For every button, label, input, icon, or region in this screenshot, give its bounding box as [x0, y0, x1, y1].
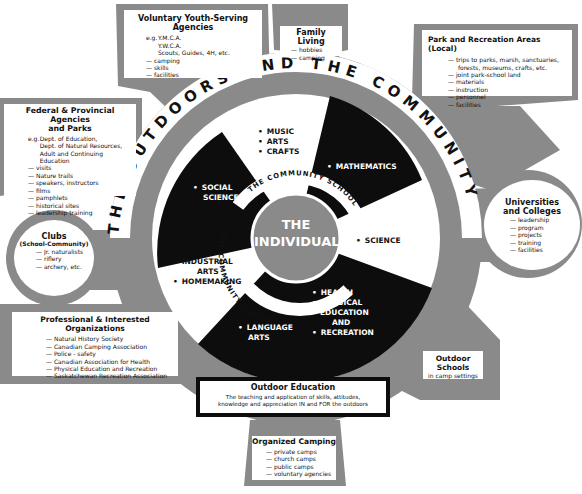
- subject-science: SCIENCE: [356, 236, 401, 246]
- box-federal-provincial: Federal & Provincial Agencies and Parks …: [4, 104, 136, 196]
- universities-item: training: [510, 239, 580, 246]
- federal-example: Dept. of Education,: [40, 135, 132, 142]
- subject-social-science: SOCIAL SCIENCE: [193, 183, 239, 203]
- subject-language-arts: LANGUAGE ARTS: [238, 323, 293, 343]
- federal-item: speakers, instructors: [28, 179, 132, 186]
- box-park-recreation: Park and Recreation Areas (Local) trips …: [422, 30, 572, 96]
- federal-item: historical sites: [28, 202, 132, 209]
- professional-title: Professional & Interested Organizations: [16, 316, 174, 333]
- clubs-subtitle: (School-Community): [14, 241, 94, 248]
- park-item: instruction: [448, 86, 568, 93]
- universities-item: program: [510, 224, 580, 231]
- outdoor-schools-subtitle: in camp settings: [423, 372, 483, 379]
- outdoor-education-title: Outdoor Education: [200, 383, 386, 392]
- family-item: hobbies: [291, 46, 339, 53]
- subject-arts-label: ARTS: [258, 137, 300, 147]
- professional-item: Saskatchewan Recreation Association: [46, 372, 174, 379]
- box-organized-camping: Organized Camping private camps church c…: [252, 436, 336, 480]
- park-title: Park and Recreation Areas (Local): [426, 36, 568, 53]
- professional-item: Physical Education and Recreation: [46, 365, 174, 372]
- park-item: joint park-school land: [448, 71, 568, 78]
- subject-crafts-label: CRAFTS: [258, 147, 300, 157]
- park-item: materials: [448, 78, 568, 85]
- subject-recreation-label: RECREATION: [312, 328, 374, 338]
- clubs-item: Jr. naturalists: [36, 248, 94, 255]
- clubs-item: riflery: [36, 255, 94, 262]
- voluntary-item: skills: [146, 64, 256, 71]
- federal-title-2: and Parks: [8, 125, 132, 134]
- voluntary-item: camping: [146, 57, 256, 64]
- universities-item: facilities: [510, 246, 580, 253]
- park-item-continuation: forests, museums, crafts, etc.: [448, 64, 568, 71]
- box-outdoor-schools: Outdoor Schools in camp settings: [423, 351, 483, 379]
- professional-item: Police - safety: [46, 350, 174, 357]
- subject-physical-label: PHYSICAL: [312, 298, 374, 308]
- subject-mathematics: MATHEMATICS: [327, 162, 397, 172]
- family-title: Family Living: [283, 28, 339, 46]
- universities-item: projects: [510, 231, 580, 238]
- community-school-upper: THE COMMUNITY SCHOOL: [247, 169, 360, 208]
- organized-camping-item: voluntary agencies: [266, 470, 336, 477]
- subject-homemaking-label: HOMEMAKING: [173, 277, 241, 287]
- subject-industrial-line2: ARTS: [173, 267, 241, 277]
- subject-music-label: MUSIC: [258, 127, 300, 137]
- federal-eg: e.g.: [28, 135, 40, 165]
- universities-title-2: and Colleges: [484, 207, 580, 216]
- voluntary-eg: e.g.: [146, 34, 158, 56]
- professional-item: Canadian Association for Health: [46, 358, 174, 365]
- box-clubs: Clubs (School-Community) Jr. naturalists…: [14, 220, 94, 296]
- park-item: personnel: [448, 93, 568, 100]
- voluntary-title-2: Agencies: [130, 23, 256, 32]
- subject-music: MUSIC ARTS CRAFTS: [258, 127, 300, 157]
- center-title-line1: THE: [254, 216, 338, 233]
- box-outdoor-education: Outdoor Education The teaching and appli…: [196, 377, 390, 417]
- professional-item: Natural History Society: [46, 335, 174, 342]
- federal-item: leadership training: [28, 209, 132, 216]
- subject-physical-line2: EDUCATION: [312, 308, 374, 318]
- box-professional-organizations: Professional & Interested Organizations …: [12, 312, 178, 376]
- organized-camping-item: private camps: [266, 448, 336, 455]
- center-title-line2: INDIVIDUAL: [254, 233, 338, 250]
- federal-example: Adult and Continuing Education: [40, 150, 132, 165]
- park-item: trips to parks, marsh, sanctuaries,: [448, 56, 568, 63]
- organized-camping-item: public camps: [266, 463, 336, 470]
- federal-title-1: Federal & Provincial Agencies: [8, 107, 132, 125]
- subject-physical-line3: AND: [312, 318, 374, 328]
- federal-item: pamphlets: [28, 194, 132, 201]
- clubs-item: archery, etc.: [36, 263, 94, 270]
- box-family-living: Family Living hobbies camping: [280, 26, 342, 56]
- federal-item: Nature trails: [28, 172, 132, 179]
- outdoor-schools-title: Outdoor Schools: [423, 355, 483, 372]
- subject-social-line1: SOCIAL: [193, 183, 239, 193]
- family-item: camping: [291, 54, 339, 61]
- box-universities: Universities and Colleges leadership pro…: [484, 180, 580, 270]
- subject-language-line2: ARTS: [238, 333, 293, 343]
- universities-item: leadership: [510, 216, 580, 223]
- outdoor-education-line1: The teaching and application of skills, …: [200, 394, 386, 401]
- diagram-stage: THE OUTDOORS AND THE COMMUNITY THE COMMU…: [0, 0, 582, 494]
- voluntary-item: facilities: [146, 71, 256, 78]
- universities-title-1: Universities: [484, 198, 580, 207]
- federal-example: Dept. of Natural Resources,: [40, 142, 132, 149]
- federal-item: visits: [28, 164, 132, 171]
- park-item: facilities: [448, 101, 568, 108]
- subject-health-label: HEALTH: [312, 288, 374, 298]
- center-title: THE INDIVIDUAL: [254, 216, 338, 250]
- voluntary-example: Y.W.C.A.: [158, 42, 230, 49]
- voluntary-example: Y.M.C.A.: [158, 34, 230, 41]
- subject-social-line2: SCIENCE: [193, 193, 239, 203]
- federal-item: films: [28, 187, 132, 194]
- voluntary-title-1: Voluntary Youth-Serving: [130, 14, 256, 23]
- box-voluntary-agencies: Voluntary Youth-Serving Agencies e.g. Y.…: [124, 10, 262, 78]
- professional-item: Canadian Camping Association: [46, 343, 174, 350]
- subject-industrial-arts: INDUSTRIAL ARTS HOMEMAKING: [173, 257, 241, 287]
- voluntary-example: Scouts, Guides, 4H, etc.: [158, 49, 230, 56]
- subject-language-line1: LANGUAGE: [238, 323, 293, 333]
- organized-camping-item: church camps: [266, 455, 336, 462]
- outdoor-education-line2: knowledge and appreciation IN and FOR th…: [200, 401, 386, 408]
- subject-industrial-line1: INDUSTRIAL: [173, 257, 241, 267]
- organized-camping-title: Organized Camping: [252, 438, 336, 447]
- subject-health-pe: HEALTH PHYSICAL EDUCATION AND RECREATION: [312, 288, 374, 338]
